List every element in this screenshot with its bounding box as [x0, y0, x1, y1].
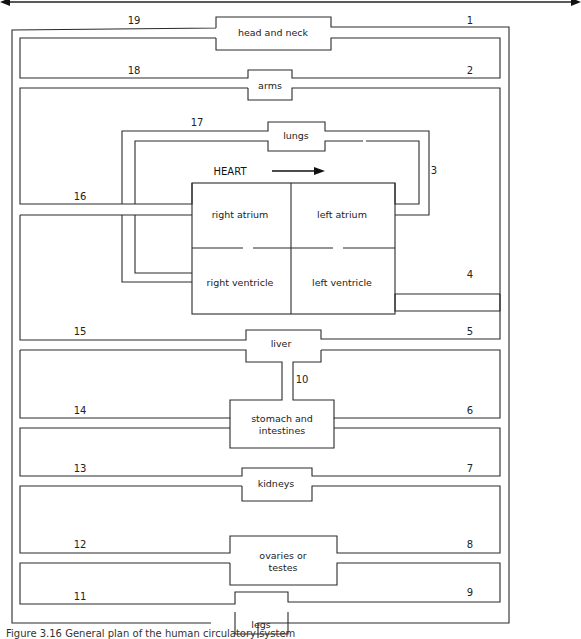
vessel-1: 1 — [467, 15, 473, 26]
organ-arms: arms — [258, 80, 282, 91]
vessel-7: 7 — [467, 463, 473, 474]
vessel-10: 10 — [296, 374, 309, 385]
chamber-right-atrium: right atrium — [212, 209, 269, 220]
vessel-15: 15 — [74, 326, 87, 337]
vessel-2: 2 — [467, 65, 473, 76]
organ-stomach-line1: stomach and — [251, 413, 313, 424]
chamber-left-ventricle: left ventricle — [312, 277, 372, 288]
organ-gonads-line2: testes — [268, 562, 297, 573]
vessel-loop-kidneys — [20, 486, 500, 553]
vessel-loop-head — [12, 17, 509, 638]
figure-caption: Figure 3.16 General plan of the human ci… — [6, 628, 295, 639]
vessel-13: 13 — [74, 463, 87, 474]
organ-kidneys: kidneys — [258, 478, 295, 489]
organ-stomach-line2: intestines — [259, 425, 305, 436]
vessel-9: 9 — [467, 587, 473, 598]
vessel-loop-lungs — [122, 122, 429, 215]
organ-liver: liver — [271, 338, 292, 349]
vessel-12: 12 — [74, 539, 87, 550]
vessel-3: 3 — [431, 165, 437, 176]
organ-gonads-line1: ovaries or — [259, 550, 306, 561]
heart — [192, 167, 395, 314]
vessel-16: 16 — [74, 191, 87, 202]
vessel-11: 11 — [74, 591, 87, 602]
vessel-6: 6 — [467, 405, 473, 416]
organ-head: head and neck — [238, 27, 309, 38]
vessel-18: 18 — [128, 65, 141, 76]
top-double-arrow — [0, 0, 581, 6]
heart-title: HEART — [213, 166, 247, 177]
vessel-17: 17 — [191, 117, 204, 128]
vessel-loop-gonads — [20, 563, 500, 604]
vessel-5: 5 — [467, 326, 473, 337]
vessel-14: 14 — [74, 405, 87, 416]
vessel-loop-liver — [20, 215, 500, 418]
chamber-left-atrium: left atrium — [317, 209, 367, 220]
vessel-8: 8 — [467, 539, 473, 550]
vessel-19: 19 — [128, 15, 141, 26]
vessel-4: 4 — [467, 269, 473, 280]
chamber-right-ventricle: right ventricle — [207, 277, 274, 288]
organ-lungs: lungs — [283, 130, 309, 141]
